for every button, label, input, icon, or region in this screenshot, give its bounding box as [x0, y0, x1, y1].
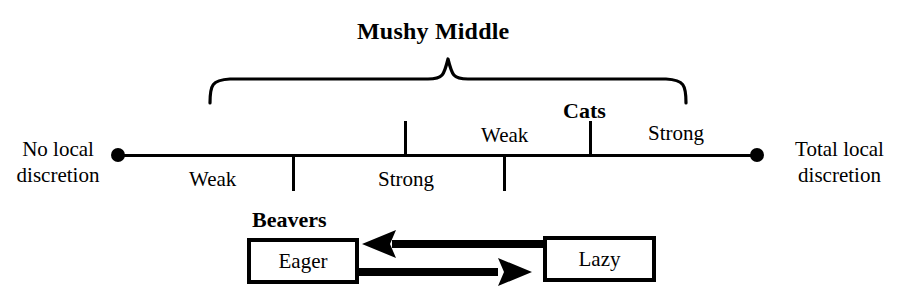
arrow-lazy-to-eager-head [362, 230, 402, 260]
marker-label-cats: Cats [563, 99, 606, 123]
diagram-canvas: Mushy Middle Cats Weak Strong No local d… [0, 0, 902, 300]
axis-left-endpoint-line2: discretion [8, 162, 108, 188]
axis-right-endpoint-dot [750, 148, 764, 162]
axis-right-endpoint-line2: discretion [782, 162, 897, 188]
segment-label-above-weak: Weak [481, 123, 528, 148]
axis-tick-4-up-cats [589, 121, 592, 157]
box-eager-label: Eager [279, 251, 328, 272]
axis-left-endpoint-line1: No local [8, 136, 108, 162]
box-lazy-label: Lazy [579, 249, 621, 270]
axis-line [118, 154, 758, 157]
axis-left-endpoint-label: No local discretion [8, 136, 108, 188]
arrow-eager-to-lazy-shaft [358, 268, 498, 276]
axis-tick-3-down [503, 155, 506, 191]
segment-label-below-weak: Weak [189, 167, 236, 192]
axis-right-endpoint-line1: Total local [782, 136, 897, 162]
box-lazy[interactable]: Lazy [543, 236, 656, 282]
axis-tick-1-down [292, 155, 295, 191]
group-label-beavers: Beavers [252, 208, 327, 232]
axis-tick-2-up [404, 121, 407, 157]
box-eager[interactable]: Eager [247, 238, 359, 284]
axis-left-endpoint-dot [111, 148, 125, 162]
axis-right-endpoint-label: Total local discretion [782, 136, 897, 188]
arrow-eager-to-lazy-head [494, 258, 536, 288]
bracket-label-mushy-middle: Mushy Middle [357, 18, 509, 44]
curly-brace [200, 55, 700, 105]
segment-label-below-strong: Strong [378, 167, 434, 192]
segment-label-above-strong: Strong [648, 121, 704, 146]
arrow-lazy-to-eager-shaft [392, 240, 544, 248]
